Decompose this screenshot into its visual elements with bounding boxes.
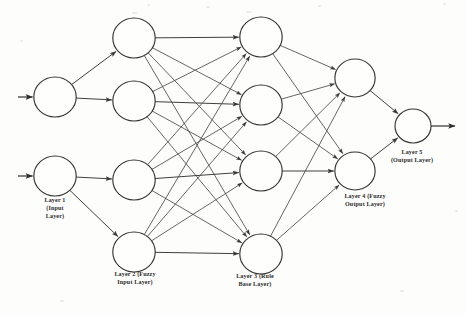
edge-l2n4-to-l3n4 (155, 252, 239, 253)
edge-l3n2-to-l4n1 (281, 84, 335, 99)
edges-layer4-to-layer5 (370, 90, 398, 159)
edge-l3n1-to-l4n2 (273, 54, 343, 154)
node-l1n2 (34, 156, 76, 196)
edge-l3n1-to-l4n1 (280, 45, 336, 69)
network-diagram-canvas (0, 0, 467, 315)
edge-l2n3-to-l3n1 (148, 54, 247, 165)
node-l1n1 (34, 77, 76, 117)
edge-l2n2-to-l3n1 (152, 47, 241, 92)
node-l2n4 (113, 232, 155, 272)
node-l4n2 (335, 152, 375, 190)
node-l2n3 (113, 160, 155, 200)
edge-l1n2-to-l2n3 (75, 177, 111, 179)
edge-l2n4-to-l3n2 (147, 122, 246, 237)
edge-l2n2-to-l3n3 (152, 111, 242, 160)
node-l3n4 (240, 234, 282, 274)
edge-l1n1-to-l2n2 (75, 98, 111, 100)
edge-l4n2-to-l5n1 (370, 138, 397, 159)
edge-l2n3-to-l3n3 (154, 173, 238, 179)
node-l2n1 (113, 18, 155, 58)
node-l5n1 (395, 109, 431, 143)
edges-layer1-to-layer2 (70, 51, 118, 236)
neural-network-figure: Layer 1 (Input Layer) Layer 2 (Fuzzy Inp… (0, 0, 467, 315)
network-nodes (34, 17, 431, 274)
node-l3n2 (240, 85, 282, 125)
external-io-arrows (18, 97, 455, 176)
node-l3n3 (240, 151, 282, 191)
edges-layer3-to-layer4 (271, 45, 345, 240)
node-l4n1 (335, 59, 375, 97)
edge-l2n1-to-l3n1 (155, 37, 239, 38)
edge-l4n1-to-l5n1 (370, 90, 398, 113)
edge-l2n4-to-l3n3 (151, 183, 242, 241)
edge-l3n2-to-l4n2 (278, 117, 338, 159)
edges-layer2-to-layer3 (144, 37, 249, 253)
node-l3n1 (240, 17, 282, 57)
edge-l1n1-to-l2n1 (71, 51, 116, 84)
node-l2n2 (113, 81, 155, 121)
edge-l3n4-to-l4n2 (276, 185, 339, 240)
edge-l1n2-to-l2n4 (70, 190, 118, 236)
